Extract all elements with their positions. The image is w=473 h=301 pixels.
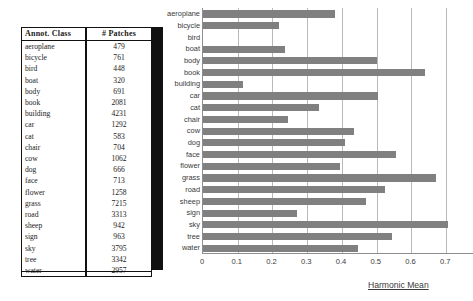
bar-car (203, 92, 378, 99)
x-tick-0p7: 0.7 (440, 257, 451, 266)
bar-road (203, 186, 385, 193)
bar-row (203, 31, 473, 43)
figure-container: Annot. Class # Patches aeroplane479bicyc… (0, 0, 473, 301)
bar-row (203, 78, 473, 90)
chart-category-labels: aeroplanebicyclebirdboatbodybookbuilding… (130, 8, 200, 254)
bar-row (203, 20, 473, 32)
bar-dog (203, 139, 345, 146)
bar-row (203, 219, 473, 231)
bar-row (203, 90, 473, 102)
bar-grass (203, 174, 436, 181)
category-label-bird: bird (130, 33, 200, 42)
bar-sky (203, 221, 448, 228)
category-label-sky: sky (130, 220, 200, 229)
x-tick-0: 0 (200, 257, 204, 266)
category-label-chair: chair (130, 115, 200, 124)
bar-row (203, 172, 473, 184)
bar-row (203, 160, 473, 172)
category-label-tree: tree (130, 232, 200, 241)
category-label-book: book (130, 68, 200, 77)
category-label-aeroplane: aeroplane (130, 9, 200, 18)
bar-tree (203, 233, 392, 240)
bar-row (203, 125, 473, 137)
category-label-bicycle: bicycle (130, 21, 200, 30)
bar-row (203, 43, 473, 55)
category-label-body: body (130, 56, 200, 65)
category-label-grass: grass (130, 173, 200, 182)
bar-row (203, 55, 473, 67)
x-tick-0p5: 0.5 (370, 257, 381, 266)
bar-body (203, 57, 377, 64)
category-label-cow: cow (130, 126, 200, 135)
bar-face (203, 151, 396, 158)
bar-row (203, 184, 473, 196)
bar-flower (203, 163, 340, 170)
category-label-flower: flower (130, 161, 200, 170)
bar-chair (203, 116, 288, 123)
bar-book (203, 69, 425, 76)
x-tick-0p4: 0.4 (336, 257, 347, 266)
category-label-sheep: sheep (130, 197, 200, 206)
bar-cow (203, 128, 354, 135)
bar-row (203, 67, 473, 79)
x-tick-0p1: 0.1 (231, 257, 242, 266)
category-label-dog: dog (130, 138, 200, 147)
category-label-cat: cat (130, 103, 200, 112)
bar-sheep (203, 198, 366, 205)
bar-bicycle (203, 22, 279, 29)
category-label-road: road (130, 185, 200, 194)
bar-water (203, 245, 358, 252)
category-label-building: building (130, 79, 200, 88)
category-label-water: water (130, 243, 200, 252)
category-label-sign: sign (130, 208, 200, 217)
bar-row (203, 137, 473, 149)
category-label-boat: boat (130, 44, 200, 53)
bar-row (203, 207, 473, 219)
bar-row (203, 102, 473, 114)
bar-aeroplane (203, 10, 335, 17)
harmonic-mean-bar-chart: aeroplanebicyclebirdboatbodybookbuilding… (0, 0, 473, 301)
bar-row (203, 231, 473, 243)
x-tick-0p6: 0.6 (405, 257, 416, 266)
bar-boat (203, 46, 285, 53)
bar-cat (203, 104, 319, 111)
bar-row (203, 113, 473, 125)
x-tick-0p2: 0.2 (266, 257, 277, 266)
category-label-car: car (130, 91, 200, 100)
bar-row (203, 195, 473, 207)
chart-plot-area (202, 8, 473, 254)
bar-row (203, 8, 473, 20)
category-label-face: face (130, 150, 200, 159)
x-axis-title: Harmonic Mean (368, 280, 429, 290)
bar-sign (203, 210, 297, 217)
bar-row (203, 149, 473, 161)
bar-building (203, 81, 243, 88)
x-tick-0p3: 0.3 (301, 257, 312, 266)
bar-row (203, 242, 473, 254)
